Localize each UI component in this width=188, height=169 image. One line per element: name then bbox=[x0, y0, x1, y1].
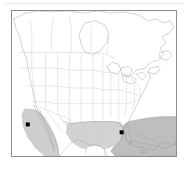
map-canvas bbox=[12, 11, 176, 156]
canada-outline bbox=[14, 11, 174, 76]
us-state-borders-vertical bbox=[32, 52, 103, 121]
range-shading-layer bbox=[22, 109, 176, 156]
locality-point-west bbox=[26, 122, 30, 126]
canada-province-borders bbox=[30, 15, 109, 54]
header-rule bbox=[6, 3, 184, 4]
map-frame bbox=[11, 10, 177, 157]
newfoundland bbox=[160, 50, 172, 60]
pacific-coast-range bbox=[22, 109, 59, 156]
distribution-map-figure bbox=[0, 0, 188, 169]
locality-point-east bbox=[120, 130, 124, 134]
us-canada-border bbox=[18, 52, 115, 58]
eastern-us-state-borders bbox=[103, 72, 141, 119]
nova-scotia bbox=[148, 66, 160, 74]
hudson-bay bbox=[79, 21, 109, 55]
